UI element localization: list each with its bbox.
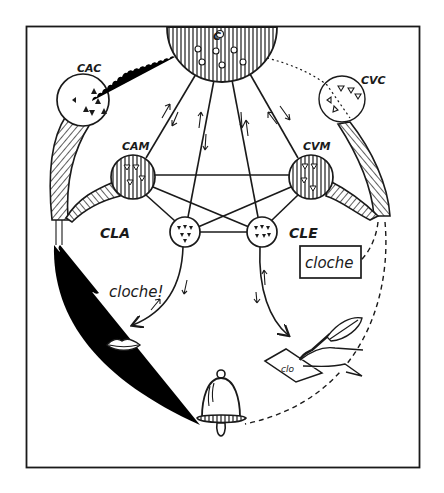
label-cam: CAM [122,140,150,153]
wavy-path-c-to-cac [92,56,175,101]
link-c-cam [146,74,196,158]
label-cvm: CVM [303,140,331,153]
centre-cvc: CVC [319,74,386,122]
dashed-path-cvc-to-written-word [359,222,378,262]
link-cvm-cle [271,195,298,221]
centre-cvm: CVM [289,140,333,199]
written-word: cloche [305,254,354,272]
cle-to-hand-path [260,247,288,335]
centre-cle: CLE [247,217,318,247]
lips-icon [107,339,140,350]
wavy-path-cac-to-bell [54,245,200,425]
label-cac: CAC [77,62,101,75]
bell-icon [197,370,246,436]
link-c-cle [232,80,258,217]
connections [146,74,298,232]
hand-arrow-up [262,270,267,285]
right-visual-tract [326,122,390,220]
label-cvc: CVC [361,74,386,87]
written-word-box: cloche [300,246,361,278]
spoken-word: cloche! [109,283,164,301]
hand-note-text: clo [281,364,294,374]
link-cam-cle [153,187,249,227]
centre-c: C [167,27,277,82]
language-centres-diagram: C CAC CVC CAM CVM [0,0,444,493]
centre-cla: CLA [100,217,200,247]
link-c-cla [188,80,214,217]
label-cla: CLA [100,225,130,241]
link-cvm-cla [198,187,291,227]
centre-cam: CAM [111,140,155,199]
mouth-arrow-down [182,280,187,294]
centre-c-label: C [213,30,221,43]
label-cle: CLE [289,225,318,241]
link-c-cvm [250,74,298,158]
hand-arrow-down [254,292,260,303]
link-cam-cla [146,195,175,221]
